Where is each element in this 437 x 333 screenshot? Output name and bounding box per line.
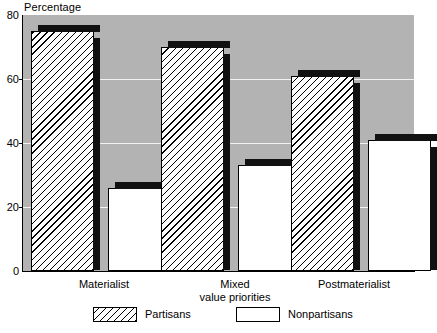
bar-shadow-top (298, 70, 360, 77)
bar-shadow-top (38, 25, 100, 32)
bar-postmaterialist-nonpartisans (368, 140, 431, 271)
bar-shadow-right (223, 54, 230, 270)
white-swatch-icon (236, 307, 280, 322)
x-axis-line (22, 271, 415, 272)
bar-postmaterialist-partisans (291, 76, 354, 271)
bar-mixed-partisans (161, 47, 224, 271)
hatched-swatch-icon (93, 307, 137, 322)
legend-label-nonpartisans: Nonpartisans (288, 308, 353, 321)
y-axis-title: Percentage (24, 1, 81, 14)
y-tick-label-20: 20 (0, 202, 19, 213)
legend-label-partisans: Partisans (145, 308, 191, 321)
y-tick-label-40: 40 (0, 138, 19, 149)
bar-shadow-top (375, 134, 437, 141)
y-tick-label-0: 0 (0, 266, 19, 277)
y-tick-label-60: 60 (0, 74, 19, 85)
plot-area (22, 15, 414, 271)
x-label-postmaterialist: Postmaterialist (292, 278, 416, 291)
y-axis-line (22, 15, 23, 272)
bar-shadow-top (168, 41, 230, 48)
bar-shadow-right (93, 38, 100, 270)
bar-shadow-right (353, 83, 360, 270)
y-axis-tick-labels: 80 60 40 20 0 (0, 0, 19, 333)
chart-legend: Partisans Nonpartisans (0, 306, 417, 330)
y-tick-label-80: 80 (0, 10, 19, 21)
bar-shadow-right (430, 147, 437, 270)
x-label-mixed-value-priorities: Mixed value priorities (170, 278, 300, 304)
x-label-materialist: Materialist (44, 278, 164, 291)
bar-materialist-partisans (31, 31, 94, 271)
